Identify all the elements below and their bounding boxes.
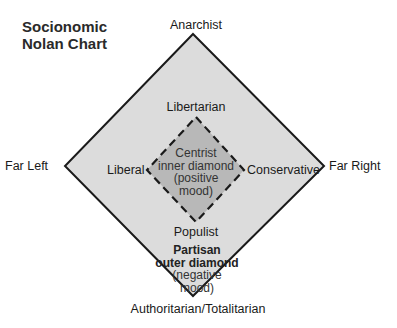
outer-caption-line-1: Partisan bbox=[155, 244, 238, 257]
inner-caption-line-3: (positive bbox=[158, 172, 234, 185]
title-line-1: Socionomic bbox=[22, 18, 107, 35]
label-conservative: Conservative bbox=[247, 163, 320, 177]
title-line-2: Nolan Chart bbox=[22, 35, 107, 52]
label-far-right: Far Right bbox=[329, 159, 380, 173]
inner-caption-line-1: Centrist bbox=[158, 147, 234, 160]
label-libertarian: Libertarian bbox=[166, 100, 225, 114]
label-populist: Populist bbox=[174, 225, 218, 239]
label-liberal: Liberal bbox=[107, 163, 145, 177]
inner-diamond-caption: Centrist inner diamond (positive mood) bbox=[158, 147, 234, 197]
chart-title: Socionomic Nolan Chart bbox=[22, 18, 107, 52]
outer-diamond-caption: Partisan outer diamond (negative mood) bbox=[155, 244, 238, 294]
inner-caption-line-4: mood) bbox=[158, 185, 234, 198]
outer-caption-line-3: (negative bbox=[155, 269, 238, 282]
label-anarchist: Anarchist bbox=[170, 18, 222, 32]
label-far-left: Far Left bbox=[5, 159, 48, 173]
outer-caption-line-4: mood) bbox=[155, 282, 238, 295]
label-authoritarian: Authoritarian/Totalitarian bbox=[131, 302, 266, 316]
